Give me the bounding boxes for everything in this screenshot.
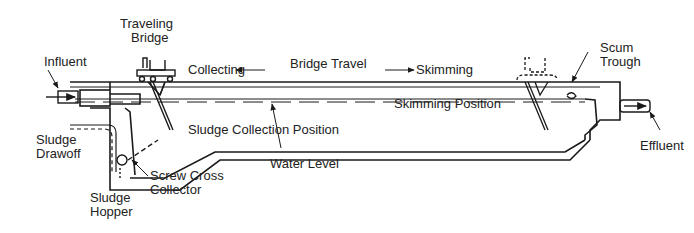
label-collecting: Collecting [188, 62, 245, 77]
label-scum-trough-1: Scum [600, 40, 633, 55]
label-traveling-bridge-2: Bridge [131, 30, 169, 45]
label-sludge-hopper-1: Sludge [90, 190, 130, 205]
label-screw-cross-collector-1: Screw Cross [150, 168, 224, 183]
label-sludge-hopper-2: Hopper [90, 204, 133, 219]
label-scum-trough-2: Trough [600, 54, 641, 69]
label-traveling-bridge-1: Traveling [120, 16, 173, 31]
label-skimming: Skimming [416, 62, 473, 77]
label-water-level: Water Level [270, 156, 339, 171]
sedimentation-tank-diagram: Traveling Bridge Influent Collecting Bri… [0, 0, 694, 233]
label-skimming-position: Skimming Position [394, 96, 501, 111]
label-screw-cross-collector-2: Collector [150, 182, 202, 197]
label-sludge-drawoff-1: Sludge [36, 132, 76, 147]
label-sludge-collection-position: Sludge Collection Position [188, 122, 339, 137]
label-sludge-drawoff-2: Drawoff [36, 146, 81, 161]
labels: Traveling Bridge Influent Collecting Bri… [36, 16, 684, 219]
label-effluent: Effluent [640, 138, 684, 153]
influent-pipe [46, 91, 78, 103]
traveling-bridge-skimming [517, 58, 576, 130]
label-bridge-travel: Bridge Travel [290, 56, 367, 71]
label-influent: Influent [44, 54, 87, 69]
traveling-bridge-collecting [137, 58, 175, 130]
effluent-pipe [620, 100, 650, 112]
